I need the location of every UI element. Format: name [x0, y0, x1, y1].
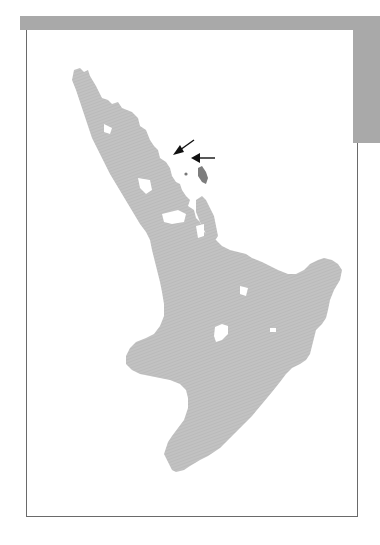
small-lake: [270, 328, 276, 332]
arrow-icon: [173, 140, 194, 155]
arrow-icon: [191, 153, 215, 163]
offshore-island: [198, 166, 208, 184]
map-figure: [0, 0, 380, 545]
land-mass: [72, 68, 342, 472]
map-canvas: [0, 0, 380, 545]
islet: [184, 172, 187, 175]
